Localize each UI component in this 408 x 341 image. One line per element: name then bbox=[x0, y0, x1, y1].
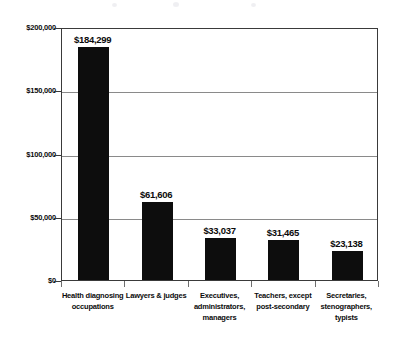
x-axis-category-label-line: Secretaries, bbox=[315, 290, 378, 301]
x-axis-tick-mark bbox=[378, 281, 379, 287]
x-axis-category-label-line: Executives, bbox=[188, 290, 251, 301]
gridline bbox=[62, 219, 377, 220]
scan-artifact bbox=[112, 3, 117, 7]
y-axis-tick-label: $200,000 bbox=[26, 24, 56, 32]
scan-artifact bbox=[251, 3, 256, 7]
x-axis-tick-mark bbox=[315, 281, 316, 287]
bar-value-label: $61,606 bbox=[126, 189, 186, 200]
y-axis-tick-label: $100,000 bbox=[26, 151, 56, 159]
y-axis-tick-mark bbox=[54, 91, 61, 92]
x-axis-tick-mark bbox=[188, 281, 189, 287]
bar bbox=[332, 251, 363, 280]
x-axis-category-label: Secretaries,stenographers,typists bbox=[315, 290, 378, 323]
x-axis-category-label-line: typists bbox=[315, 312, 378, 323]
x-axis-category-label-line: post-secondary bbox=[251, 301, 314, 312]
x-axis-category-label-line: stenographers, bbox=[315, 301, 378, 312]
y-axis-tick-label: $150,000 bbox=[26, 87, 56, 95]
y-axis-tick-mark bbox=[54, 155, 61, 156]
x-axis-tick-mark bbox=[61, 281, 62, 287]
x-axis-category-label-line: managers bbox=[188, 312, 251, 323]
bar-value-label: $33,037 bbox=[190, 225, 250, 236]
y-axis-tick-mark bbox=[54, 218, 61, 219]
gridline bbox=[62, 92, 377, 93]
y-axis-tick-label: $50,000 bbox=[30, 214, 56, 222]
bar-chart: $0$50,000$100,000$150,000$200,000$184,29… bbox=[0, 0, 408, 341]
x-axis-category-label: Lawyers & judges bbox=[124, 290, 187, 301]
bar-value-label: $23,138 bbox=[316, 238, 376, 249]
y-axis-tick-mark bbox=[54, 281, 61, 282]
x-axis-tick-mark bbox=[124, 281, 125, 287]
x-axis-category-label-line: Health diagnosing bbox=[61, 290, 124, 301]
scan-artifact bbox=[173, 2, 179, 7]
bar-value-label: $184,299 bbox=[63, 34, 123, 45]
bar bbox=[142, 202, 173, 280]
x-axis-category-label-line: administrators, bbox=[188, 301, 251, 312]
x-axis-tick-mark bbox=[251, 281, 252, 287]
x-axis-category-label: Health diagnosingoccupations bbox=[61, 290, 124, 312]
x-axis-category-label-line: Teachers, except bbox=[251, 290, 314, 301]
gridline bbox=[62, 156, 377, 157]
x-axis-category-label: Teachers, exceptpost-secondary bbox=[251, 290, 314, 312]
bar bbox=[78, 47, 109, 280]
bar bbox=[205, 238, 236, 280]
y-axis-tick-mark bbox=[54, 28, 61, 29]
x-axis-category-label-line: Lawyers & judges bbox=[124, 290, 187, 301]
bar bbox=[268, 240, 299, 280]
x-axis-category-label-line: occupations bbox=[61, 301, 124, 312]
bar-value-label: $31,465 bbox=[253, 227, 313, 238]
x-axis-category-label: Executives,administrators,managers bbox=[188, 290, 251, 323]
